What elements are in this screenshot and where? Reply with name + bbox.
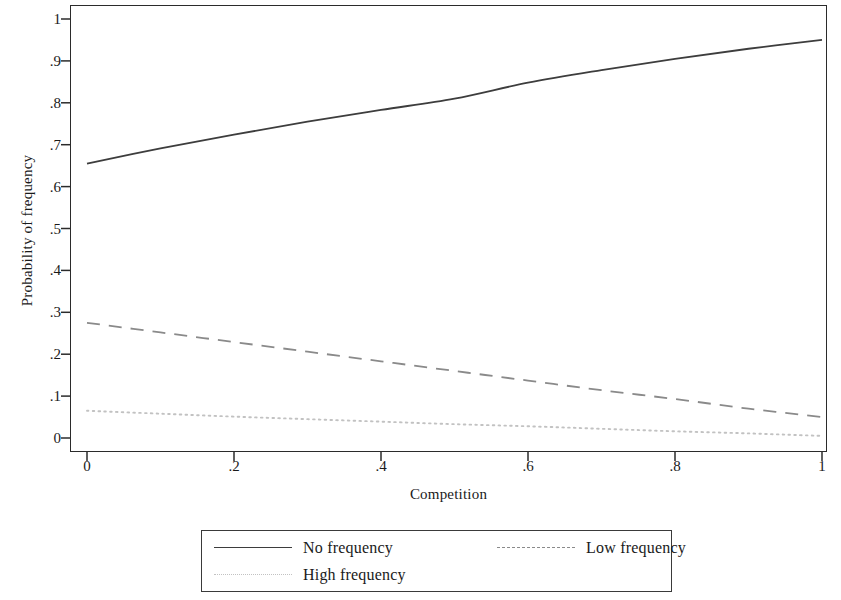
legend-item-low-frequency: Low frequency xyxy=(497,535,686,561)
legend-key-dotted-line-icon xyxy=(214,568,292,582)
y-axis-tick-label: .6 xyxy=(17,179,61,194)
y-axis-tick-label: .2 xyxy=(17,347,61,362)
chart-figure: Probability of frequency 0.1.2.3.4.5.6.7… xyxy=(0,0,841,600)
x-axis-tick-label: .4 xyxy=(351,459,411,474)
legend-label-high-frequency: High frequency xyxy=(303,566,406,584)
y-axis-tick-label: .9 xyxy=(17,53,61,68)
x-axis-tick-label: .8 xyxy=(645,459,705,474)
legend-item-high-frequency: High frequency xyxy=(214,562,406,588)
plot-area xyxy=(70,5,827,452)
y-axis-tick-label: 0 xyxy=(17,431,61,446)
x-axis-tick-label: 0 xyxy=(57,459,117,474)
x-axis-tick-label: .2 xyxy=(204,459,264,474)
legend-label-low-frequency: Low frequency xyxy=(586,539,686,557)
y-axis-tick-label: .7 xyxy=(17,137,61,152)
legend-item-no-frequency: No frequency xyxy=(214,535,393,561)
y-axis-tick-label: .1 xyxy=(17,389,61,404)
y-axis-tick-label: .4 xyxy=(17,263,61,278)
x-axis-title: Competition xyxy=(70,486,827,503)
chart-legend: No frequency Low frequency High frequenc… xyxy=(201,530,672,592)
legend-key-dashed-line-icon xyxy=(497,541,575,555)
x-axis-tick-label: 1 xyxy=(792,459,841,474)
y-axis-tick-label: .3 xyxy=(17,305,61,320)
legend-key-solid-line-icon xyxy=(214,541,292,555)
y-axis-tick-label: .5 xyxy=(17,221,61,236)
x-axis-tick-label: .6 xyxy=(498,459,558,474)
y-axis-tick-labels: 0.1.2.3.4.5.6.7.8.91 xyxy=(0,0,61,600)
y-axis-tick-label: .8 xyxy=(17,95,61,110)
legend-label-no-frequency: No frequency xyxy=(303,539,393,557)
y-axis-tick-label: 1 xyxy=(17,12,61,27)
